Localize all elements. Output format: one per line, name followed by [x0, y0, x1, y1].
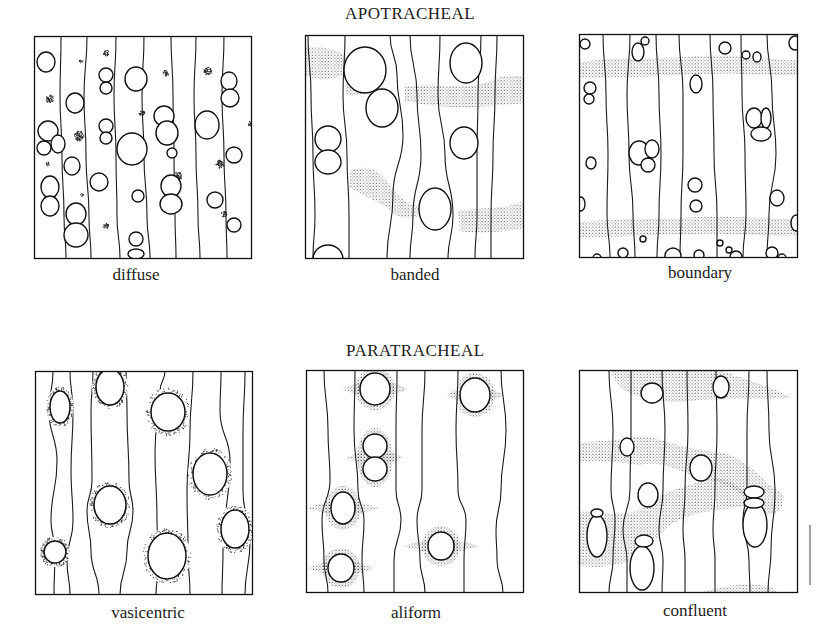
diffuse-illustration	[34, 36, 252, 259]
panel-vasicentric	[35, 371, 253, 595]
panel-label-boundary: boundary	[668, 263, 732, 283]
panel-diffuse	[34, 36, 252, 259]
aliform-illustration	[306, 370, 524, 593]
panel-label-vasicentric: vasicentric	[111, 603, 185, 623]
panel-banded	[305, 35, 524, 259]
panel-label-banded: banded	[390, 265, 439, 285]
panel-label-confluent: confluent	[663, 601, 727, 621]
panel-confluent	[579, 370, 798, 593]
banded-illustration	[305, 35, 524, 259]
confluent-illustration	[579, 370, 798, 593]
panel-boundary	[579, 34, 798, 258]
scan-artifact-line	[809, 525, 811, 585]
vasicentric-illustration	[35, 371, 253, 595]
panel-aliform	[306, 370, 524, 593]
heading-apotracheal: APOTRACHEAL	[345, 4, 475, 24]
panel-label-aliform: aliform	[391, 603, 441, 623]
heading-paratracheal: PARATRACHEAL	[346, 341, 485, 361]
boundary-illustration	[579, 34, 798, 258]
panel-label-diffuse: diffuse	[113, 265, 160, 285]
